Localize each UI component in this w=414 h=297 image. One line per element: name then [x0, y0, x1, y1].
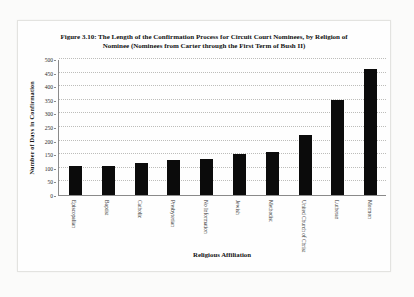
x-category-label-text: No Information: [203, 200, 209, 234]
x-category-label-text: Methodist: [268, 200, 274, 222]
figure-page: Figure 3.10: The Length of the Confirmat…: [17, 20, 391, 272]
y-tick-label: 500: [45, 57, 53, 63]
x-category-label-text: Lutheran: [334, 200, 340, 219]
x-category-label: Catholic: [124, 200, 157, 218]
x-category-label: Methodist: [255, 200, 288, 222]
bar: [299, 135, 312, 195]
gridline: [59, 72, 386, 73]
x-category-label-text: Catholic: [137, 200, 143, 218]
x-category-label: Presbyterian: [156, 200, 189, 227]
bar: [233, 154, 246, 195]
plot-area: [58, 60, 386, 196]
x-category-label: No Information: [189, 200, 222, 234]
y-tick-label: 300: [45, 111, 53, 117]
x-category-label-text: Presbyterian: [170, 200, 176, 227]
bar: [102, 166, 115, 195]
y-tick-label: 400: [45, 84, 53, 90]
bar: [200, 159, 213, 195]
figure-title: Figure 3.10: The Length of the Confirmat…: [48, 33, 360, 52]
x-category-label: Jewish: [222, 200, 255, 215]
gridline: [59, 58, 386, 59]
x-axis-title: Religious Affiliation: [58, 251, 386, 258]
x-category-label: United Church of Christ: [288, 200, 321, 252]
x-axis-category-labels: EpiscopalianBaptistCatholicPresbyterianN…: [58, 200, 386, 272]
x-category-label: Mormon: [353, 200, 386, 219]
y-tick-label: 100: [45, 166, 53, 172]
x-category-label: Lutheran: [320, 200, 353, 219]
y-tick-label: 0: [50, 193, 53, 199]
bar: [364, 69, 377, 195]
y-tick-label: 50: [48, 179, 54, 185]
x-category-label: Episcopalian: [58, 200, 91, 228]
x-category-label-text: United Church of Christ: [301, 200, 307, 252]
x-category-label-text: Episcopalian: [71, 200, 77, 228]
y-tick-label: 150: [45, 152, 53, 158]
bar: [167, 160, 180, 195]
bar: [135, 163, 148, 195]
x-category-label-text: Mormon: [367, 200, 373, 219]
x-category-label-text: Jewish: [235, 200, 241, 215]
x-category-label: Baptist: [91, 200, 124, 215]
y-tick-label: 200: [45, 139, 53, 145]
y-tick-label: 350: [45, 98, 53, 104]
y-tick-label: 250: [45, 125, 53, 131]
bar: [331, 100, 344, 195]
bar: [266, 152, 279, 195]
bar: [69, 166, 82, 195]
x-category-label-text: Baptist: [104, 200, 110, 215]
y-axis-tick-labels: 050100150200250300350400450500: [18, 60, 56, 196]
gridline: [59, 85, 386, 86]
y-tick-label: 450: [45, 71, 53, 77]
